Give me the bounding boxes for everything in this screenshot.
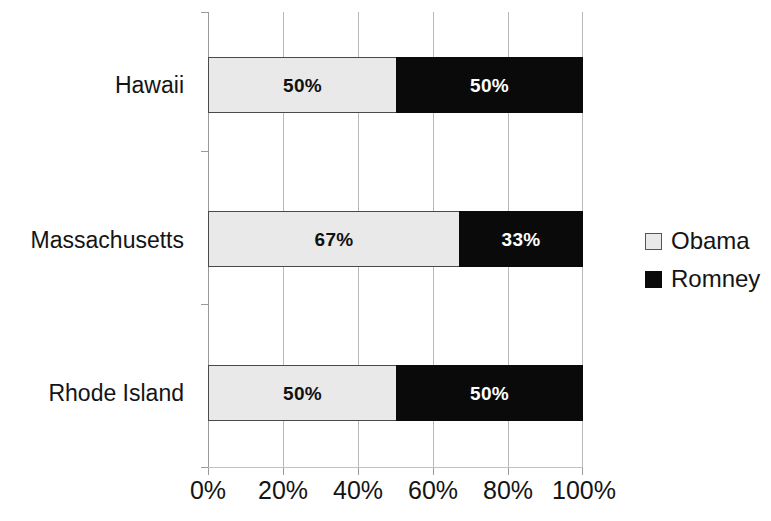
x-axis-tick: [283, 468, 284, 475]
bar-segment-obama: 50%: [208, 57, 396, 113]
bar-row-rhode-island: 50% 50%: [208, 365, 583, 421]
legend-item-label: Obama: [671, 229, 750, 253]
bar-segment-romney: 50%: [396, 57, 583, 113]
bar-segment-obama: 67%: [208, 211, 459, 267]
x-axis-tick-label: 20%: [258, 478, 308, 503]
y-axis-tick: [201, 304, 208, 305]
bar-value-label: 50%: [470, 384, 509, 403]
y-axis-tick: [201, 467, 208, 468]
y-axis-label-text: Massachusetts: [31, 229, 184, 252]
x-axis-tick: [433, 468, 434, 475]
x-axis-tick-label: 60%: [408, 478, 458, 503]
bar-row-massachusetts: 67% 33%: [208, 211, 583, 267]
bar-segment-romney: 50%: [396, 365, 583, 421]
x-axis-tick-label: 0%: [190, 478, 226, 503]
bar-row-hawaii: 50% 50%: [208, 57, 583, 113]
y-axis-category-labels: Hawaii Massachusetts Rhode Island: [0, 0, 196, 521]
x-axis-tick-labels: 0% 20% 40% 60% 80% 100%: [208, 478, 583, 518]
x-axis-baseline: [208, 467, 583, 468]
bar-segment-obama: 50%: [208, 365, 396, 421]
bar-value-label: 67%: [315, 230, 354, 249]
x-axis-tick-label: 80%: [483, 478, 533, 503]
y-axis-label-text: Rhode Island: [48, 382, 184, 405]
romney-swatch-icon: [645, 271, 662, 288]
obama-swatch-icon: [645, 233, 662, 250]
x-axis-tick: [508, 468, 509, 475]
x-axis-tick: [582, 468, 583, 475]
legend-item-romney[interactable]: Romney: [645, 260, 771, 298]
bar-value-label: 50%: [283, 384, 322, 403]
y-axis-tick: [201, 12, 208, 13]
plot-area: 50% 50% 67% 33% 50% 50%: [208, 12, 583, 468]
y-axis-tick: [201, 151, 208, 152]
bar-segment-romney: 33%: [459, 211, 583, 267]
bar-value-label: 33%: [502, 230, 541, 249]
chart-legend: Obama Romney: [645, 222, 771, 298]
y-axis-label-text: Hawaii: [115, 74, 184, 97]
bar-value-label: 50%: [283, 76, 322, 95]
x-axis-tick-label: 100%: [552, 478, 616, 503]
legend-item-obama[interactable]: Obama: [645, 222, 771, 260]
stacked-bar-chart: Hawaii Massachusetts Rhode Island: [0, 0, 771, 521]
bar-value-label: 50%: [470, 76, 509, 95]
x-axis-tick: [358, 468, 359, 475]
x-axis-tick-label: 40%: [333, 478, 383, 503]
legend-item-label: Romney: [671, 267, 760, 291]
x-axis-tick: [208, 468, 209, 475]
